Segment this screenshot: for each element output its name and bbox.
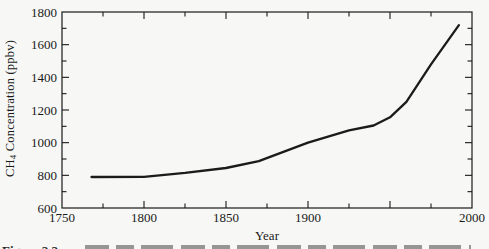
caption-text-cutoff-smudge xyxy=(85,245,471,249)
x-tick-label: 1850 xyxy=(206,211,246,224)
x-tick-label: 1800 xyxy=(124,211,164,224)
x-axis-title: Year xyxy=(237,228,297,244)
methane-concentration-figure: CH4 Concentration (ppbv) 175018001850190… xyxy=(0,0,489,249)
y-axis-title-prefix: CH xyxy=(3,159,17,177)
y-tick-label: 600 xyxy=(19,202,57,215)
x-tick-label: 2000 xyxy=(452,211,489,224)
y-axis-title: CH4 Concentration (ppbv) xyxy=(3,38,20,180)
plot-frame xyxy=(62,12,472,208)
y-tick-label: 1600 xyxy=(19,38,57,51)
y-tick-label: 1800 xyxy=(19,6,57,19)
y-tick-label: 1200 xyxy=(19,104,57,117)
y-axis-title-subscript: 4 xyxy=(8,155,18,160)
y-axis-title-suffix: Concentration (ppbv) xyxy=(3,40,17,155)
ch4-concentration-curve xyxy=(92,25,459,177)
x-tick-label: 1900 xyxy=(288,211,328,224)
y-tick-label: 800 xyxy=(19,169,57,182)
y-tick-label: 1400 xyxy=(19,71,57,84)
y-tick-label: 1000 xyxy=(19,136,57,149)
